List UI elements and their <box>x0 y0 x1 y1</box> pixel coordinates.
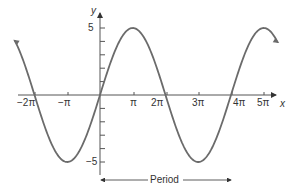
curve-arrow-left <box>13 40 19 45</box>
y-tick-5: 5 <box>88 23 94 33</box>
x-tick-neg2pi: −2π <box>17 98 35 108</box>
x-tick-2pi: 2π <box>151 98 163 108</box>
x-tick-pi: π <box>130 98 137 108</box>
x-tick-4pi: 4π <box>233 98 245 108</box>
y-tick-neg5: −5 <box>86 157 97 167</box>
period-label: Period <box>150 175 179 185</box>
x-axis-label: x <box>280 99 285 109</box>
sine-chart <box>0 0 296 191</box>
curve-arrow-right <box>273 38 279 43</box>
x-tick-negpi: −π <box>58 98 71 108</box>
x-tick-3pi: 3π <box>192 98 204 108</box>
y-axis-label: y <box>91 6 96 16</box>
x-tick-5pi: 5π <box>257 98 269 108</box>
